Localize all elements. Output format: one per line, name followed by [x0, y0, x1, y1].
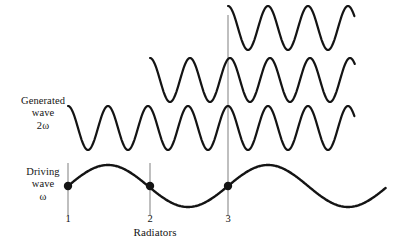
- generated-wave-label-line2: wave: [0, 107, 86, 119]
- physics-figure-second-harmonic: Generated wave 2ω Driving wave ω Radiato…: [0, 0, 397, 248]
- wave-curves: [68, 6, 386, 207]
- driving-wave-label: Driving wave ω: [0, 166, 86, 203]
- radiator-dot-2: [146, 182, 154, 190]
- generated-wave-label-line3: 2ω: [0, 120, 86, 132]
- radiator-number-1: 1: [61, 213, 75, 224]
- driving-wave-label-line2: wave: [0, 178, 86, 190]
- radiator-number-3: 3: [221, 213, 235, 224]
- radiator-number-2: 2: [143, 213, 157, 224]
- wave-curve-generated-wave-from-radiator-3: [228, 6, 354, 50]
- wave-curve-generated-wave-from-radiator-2: [150, 58, 355, 102]
- generated-wave-label: Generated wave 2ω: [0, 95, 86, 132]
- radiator-dot-markers: [64, 182, 232, 190]
- driving-wave-label-line1: Driving: [0, 166, 86, 178]
- driving-wave-label-line3: ω: [0, 191, 86, 203]
- generated-wave-label-line1: Generated: [0, 95, 86, 107]
- wave-curve-generated-wave-from-radiator-1: [68, 106, 354, 150]
- radiator-dot-3: [224, 182, 232, 190]
- radiators-caption: Radiators: [95, 226, 215, 239]
